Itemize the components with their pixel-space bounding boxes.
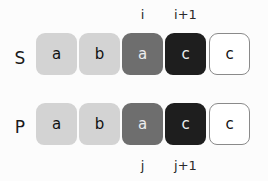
s-cell-4: c: [209, 33, 250, 75]
p-cell-1: b: [79, 103, 120, 145]
cell-char: a: [52, 45, 61, 63]
cell-char: a: [138, 45, 147, 63]
p-cell-0: a: [36, 103, 77, 145]
cell-char: c: [181, 45, 189, 63]
p-cell-4: c: [209, 103, 250, 145]
cell-char: c: [225, 115, 233, 133]
index-label-j: j: [122, 158, 163, 174]
cell-char: a: [52, 115, 61, 133]
index-label-i: i: [122, 7, 163, 23]
s-cell-0: a: [36, 33, 77, 75]
p-cell-3: c: [165, 103, 206, 145]
row-label-p: P: [12, 117, 28, 137]
s-cell-3: c: [165, 33, 206, 75]
s-cell-2: a: [122, 33, 163, 75]
index-label-i-plus-1: i+1: [165, 7, 206, 23]
cell-char: b: [95, 115, 105, 133]
row-label-s: S: [12, 48, 28, 68]
cell-char: b: [95, 45, 105, 63]
cell-char: c: [181, 115, 189, 133]
cell-char: a: [138, 115, 147, 133]
p-cell-2: a: [122, 103, 163, 145]
cell-char: c: [225, 45, 233, 63]
index-label-j-plus-1: j+1: [165, 158, 206, 174]
s-cell-1: b: [79, 33, 120, 75]
